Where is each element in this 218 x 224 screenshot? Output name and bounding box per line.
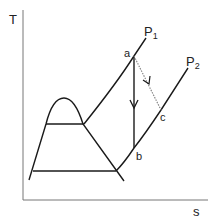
y-axis-label: T <box>9 12 17 27</box>
isobar-p2 <box>116 68 188 171</box>
x-axis-label: s <box>193 204 200 219</box>
saturation-dome <box>29 98 124 181</box>
point-a-label: a <box>124 47 131 59</box>
point-b-label: b <box>136 150 142 162</box>
isobar-p2-label: P2 <box>186 54 200 71</box>
ts-diagram: T s a b c P1 P2 <box>0 0 218 224</box>
point-c-label: c <box>160 111 166 123</box>
isobar-p1 <box>84 38 146 124</box>
isobar-p1-label: P1 <box>144 24 158 41</box>
